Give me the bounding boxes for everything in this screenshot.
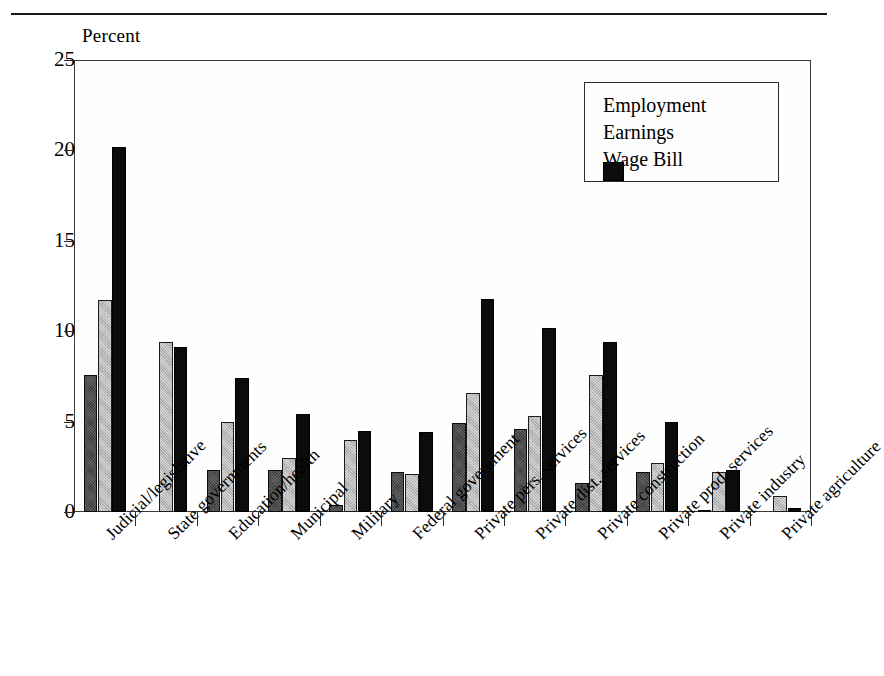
y-axis-unit-label: Percent	[82, 26, 140, 46]
bar-wagebill	[358, 431, 372, 512]
legend-item-wagebill: Wage Bill	[603, 146, 778, 173]
x-axis-tick-mark	[258, 512, 259, 526]
x-axis-tick-mark	[565, 512, 566, 526]
bar-wagebill	[112, 147, 126, 512]
bar-group	[258, 60, 319, 512]
legend-label-employment: Employment	[603, 95, 706, 116]
bar-wagebill	[174, 347, 188, 512]
bar-group	[74, 60, 135, 512]
chart-legend: Employment Earnings Wage Bill	[584, 82, 779, 182]
bar-wagebill	[419, 432, 433, 512]
x-axis-tick-mark	[197, 512, 198, 526]
x-axis-tick-mark	[504, 512, 505, 526]
x-axis-tick-mark	[750, 512, 751, 526]
y-axis-tick-mark	[64, 512, 75, 513]
legend-label-earnings: Earnings	[603, 122, 674, 143]
x-axis-tick-mark	[688, 512, 689, 526]
bar-group	[381, 60, 442, 512]
header-rule	[11, 13, 827, 15]
bar-wagebill	[542, 328, 556, 512]
bar-earnings	[98, 300, 112, 512]
wagebill-swatch	[603, 162, 624, 181]
clipped-header-text	[160, 0, 680, 2]
x-axis-tick-mark	[811, 512, 812, 526]
bar-employment	[84, 375, 98, 512]
bar-group	[320, 60, 381, 512]
x-axis-tick-mark	[135, 512, 136, 526]
bar-earnings	[405, 474, 419, 512]
x-axis-tick-mark	[381, 512, 382, 526]
bar-wagebill	[603, 342, 617, 512]
bar-earnings	[344, 440, 358, 512]
bar-earnings	[773, 496, 787, 512]
legend-item-earnings: Earnings	[603, 119, 778, 146]
x-axis-tick-mark	[627, 512, 628, 526]
legend-item-employment: Employment	[603, 92, 778, 119]
x-axis-tick-mark	[443, 512, 444, 526]
x-axis-tick-mark	[320, 512, 321, 526]
